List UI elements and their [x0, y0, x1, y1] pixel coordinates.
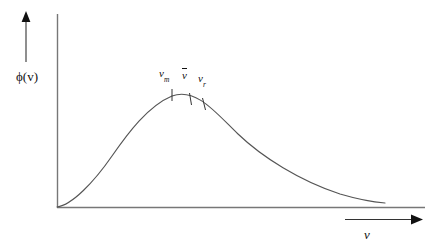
distribution-curve [57, 94, 385, 207]
curve-label-vr: vr [198, 73, 206, 87]
y-axis-label: ϕ(v) [16, 70, 38, 83]
y-axis-label-text: ϕ(v) [16, 69, 38, 84]
curve-label-vbar: v [182, 69, 187, 81]
vr-subscript: r [203, 80, 206, 89]
x-axis-label-text: v [364, 227, 370, 242]
curve-label-vm: vm [159, 68, 169, 82]
vm-subscript: m [164, 75, 169, 84]
x-axis-indicator-arrow [345, 215, 423, 225]
speed-distribution-figure: ϕ(v) v vm v vr [0, 0, 436, 247]
tick-mark-vbar [190, 93, 192, 105]
plot-canvas [0, 0, 436, 247]
vbar-base: v [182, 69, 187, 81]
x-axis-label: v [364, 228, 370, 241]
y-axis-indicator-arrow [22, 11, 31, 62]
